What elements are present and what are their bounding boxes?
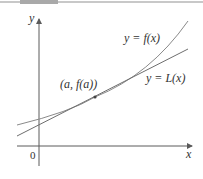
x-axis-label: x	[185, 147, 192, 161]
curve-L-label: y = L(x)	[145, 71, 185, 85]
point-label: (a, f(a))	[60, 77, 97, 91]
linear-approximation-diagram: y x 0 y = f(x) y = L(x) (a, f(a))	[0, 0, 203, 179]
curve-f-label: y = f(x)	[123, 31, 160, 45]
tangent-line-L	[17, 49, 188, 136]
tangent-point	[93, 95, 96, 98]
y-axis-label: y	[28, 11, 35, 25]
origin-label: 0	[30, 149, 36, 161]
